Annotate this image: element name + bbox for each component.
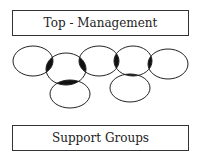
group-ellipse-1 <box>13 46 53 76</box>
support-groups-label: Support Groups <box>52 131 149 145</box>
group-ellipse-7 <box>110 74 150 102</box>
support-groups-box: Support Groups <box>12 125 189 151</box>
group-ellipse-4 <box>114 46 152 76</box>
group-ellipse-5 <box>148 49 188 79</box>
group-ellipse-3 <box>79 46 119 76</box>
